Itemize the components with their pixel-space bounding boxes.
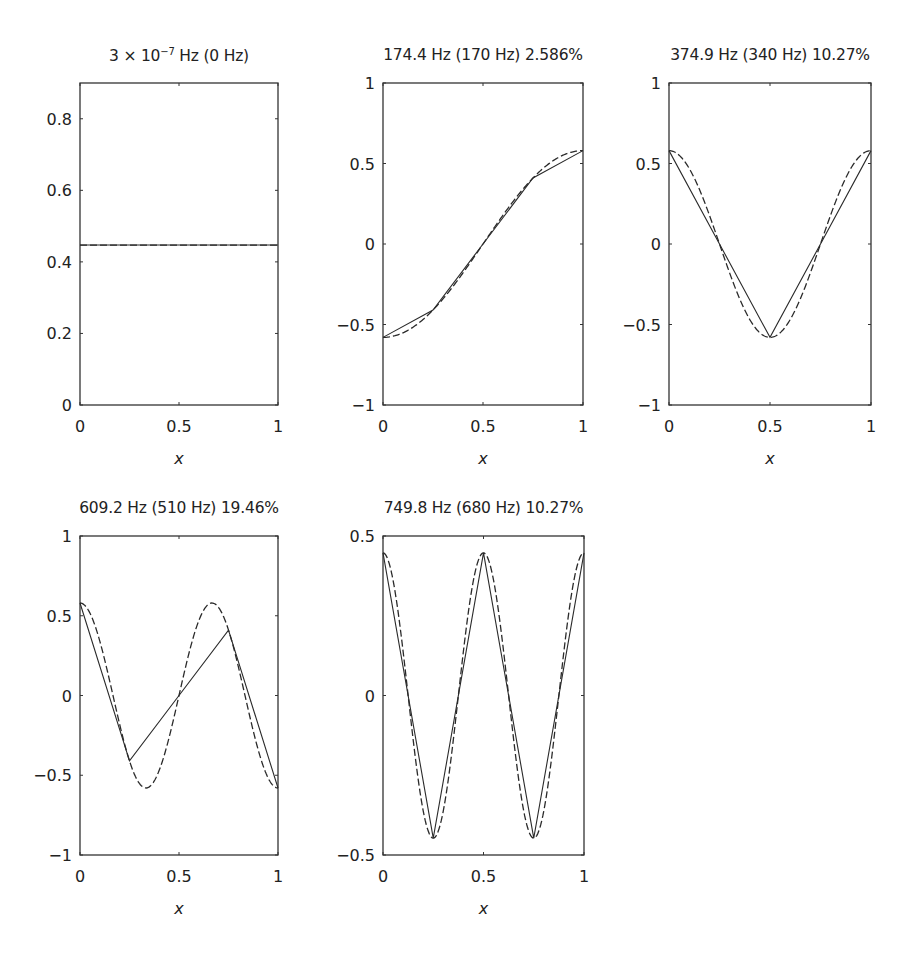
x-tick-label: 0 bbox=[378, 867, 388, 886]
fem-mode-line bbox=[383, 553, 584, 838]
y-tick-label: 0.5 bbox=[350, 527, 383, 546]
plot-area bbox=[0, 0, 921, 954]
exact-mode-line bbox=[383, 553, 584, 838]
y-tick-label: −0.5 bbox=[336, 846, 383, 865]
x-axis-label: x bbox=[479, 899, 488, 918]
x-tick-label: 0.5 bbox=[471, 867, 496, 886]
figure: 3 × 10−7 Hz (0 Hz)00.20.40.60.800.51x174… bbox=[0, 0, 921, 954]
axes-frame bbox=[383, 536, 584, 855]
x-tick-label: 1 bbox=[579, 867, 589, 886]
y-tick-label: 0 bbox=[365, 686, 383, 705]
